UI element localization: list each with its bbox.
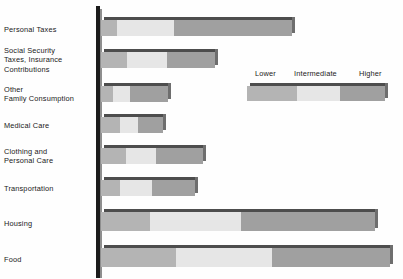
bar-row [101,86,168,102]
bar-top-bevel [104,145,206,148]
bar-side-bevel [168,83,171,99]
bar-top-bevel [104,49,218,52]
bar-segment-intermediate [120,180,152,196]
legend-swatch-bar [247,86,385,101]
bar-top-bevel [104,17,295,20]
bar-top-bevel [104,83,171,86]
bar-side-bevel [215,49,218,65]
bar-segment-lower [101,117,120,133]
bar-segment-higher [152,180,195,196]
category-label-other-family-consumption: Other Family Consumption [4,85,74,104]
legend-swatch-higher [340,86,385,101]
bar-segment-intermediate [117,20,174,36]
bar-segment-higher [167,52,215,68]
bar-segment-intermediate [120,117,138,133]
bar-segment-lower [101,20,117,36]
bar-top-bevel [104,114,166,117]
bar-segment-intermediate [113,86,130,102]
bar-row [101,117,163,133]
legend-swatch-side-bevel [385,83,388,98]
bar-segment-higher [241,212,375,231]
stacked-bar-chart: Personal Taxes Social Security Taxes, In… [0,0,403,279]
bar-segment-intermediate [127,52,167,68]
category-label-medical-care: Medical Care [4,121,49,130]
bar-segment-lower [101,86,113,102]
bar-top-bevel [104,177,198,180]
bar-row [101,248,390,267]
bar-segment-intermediate [150,212,241,231]
legend [247,86,385,101]
category-label-clothing-personal-care: Clothing and Personal Care [4,147,53,166]
category-label-food: Food [4,255,21,264]
bar-row [101,148,203,164]
bar-segment-higher [130,86,168,102]
bar-segment-lower [101,148,126,164]
legend-label-lower: Lower [255,69,276,78]
bar-segment-lower [101,52,127,68]
category-label-social-security: Social Security Taxes, Insurance Contrib… [4,46,62,74]
bar-segment-lower [101,180,120,196]
bar-segment-lower [101,248,176,267]
category-label-housing: Housing [4,219,32,228]
legend-swatch-lower [247,86,297,101]
legend-label-higher: Higher [359,69,382,78]
bar-segment-higher [174,20,292,36]
bar-segment-intermediate [176,248,272,267]
legend-label-intermediate: Intermediate [294,69,337,78]
bar-row [101,180,195,196]
bar-side-bevel [203,145,206,161]
bar-side-bevel [163,114,166,130]
bar-segment-higher [272,248,390,267]
bar-segment-intermediate [126,148,156,164]
bar-side-bevel [292,17,295,33]
bar-side-bevel [375,209,378,228]
bar-segment-higher [156,148,203,164]
bar-side-bevel [195,177,198,193]
vertical-axis-shadow [100,9,102,278]
legend-swatch-intermediate [297,86,340,101]
bar-row [101,20,292,36]
category-label-transportation: Transportation [4,184,53,193]
category-label-personal-taxes: Personal Taxes [4,25,57,34]
bar-top-bevel [104,209,378,212]
bar-side-bevel [390,245,393,264]
bar-row [101,52,215,68]
legend-swatch-top-bevel [250,83,388,86]
bar-segment-higher [138,117,163,133]
bar-row [101,212,375,231]
bar-top-bevel [104,245,393,248]
bar-segment-lower [101,212,150,231]
